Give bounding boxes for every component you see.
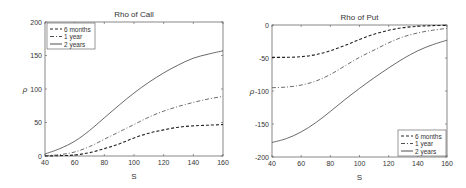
x-tick-label: 40 <box>268 160 276 167</box>
legend-label: 6 months <box>415 133 442 140</box>
y-tick-label: 0 <box>38 153 42 160</box>
x-axis-label: S <box>357 173 362 182</box>
y-tick-label: -200 <box>255 154 269 161</box>
x-tick-label: 80 <box>100 159 108 166</box>
y-tick-label: 0 <box>265 22 269 29</box>
x-tick-label: 40 <box>41 159 49 166</box>
x-tick-label: 120 <box>383 160 395 167</box>
legend-label: 2 years <box>415 148 437 156</box>
x-tick-label: 140 <box>187 159 199 166</box>
y-tick-label: 50 <box>34 119 42 126</box>
legend-label: 6 months <box>64 26 91 33</box>
rho-of-put-chart: 406080100120140160-200-150-100-500Rho of… <box>249 13 453 182</box>
y-tick-label: -150 <box>255 121 269 128</box>
chart-title: Rho of Call <box>114 10 154 19</box>
x-tick-label: 140 <box>412 160 424 167</box>
legend: 6 months1 year2 years <box>398 130 446 156</box>
y-axis-label: ρ <box>22 85 28 94</box>
y-tick-label: -50 <box>259 55 269 62</box>
legend-label: 2 years <box>64 41 86 49</box>
x-tick-label: 160 <box>217 159 229 166</box>
x-tick-label: 100 <box>128 159 140 166</box>
y-tick-label: 200 <box>30 19 42 26</box>
x-tick-label: 60 <box>71 159 79 166</box>
chart-title: Rho of Put <box>341 13 380 22</box>
x-tick-label: 160 <box>441 160 453 167</box>
x-tick-label: 100 <box>354 160 366 167</box>
x-tick-label: 80 <box>326 160 334 167</box>
y-tick-label: -100 <box>255 88 269 95</box>
legend: 6 months1 year2 years <box>47 23 95 49</box>
chart-figure: 406080100120140160050100150200Rho of Cal… <box>0 0 466 188</box>
y-tick-label: 150 <box>30 52 42 59</box>
y-axis-label: ρ <box>249 87 255 96</box>
rho-of-call-chart: 406080100120140160050100150200Rho of Cal… <box>22 10 229 181</box>
x-tick-label: 60 <box>297 160 305 167</box>
x-tick-label: 120 <box>158 159 170 166</box>
y-tick-label: 100 <box>30 86 42 93</box>
x-axis-label: S <box>131 172 136 181</box>
